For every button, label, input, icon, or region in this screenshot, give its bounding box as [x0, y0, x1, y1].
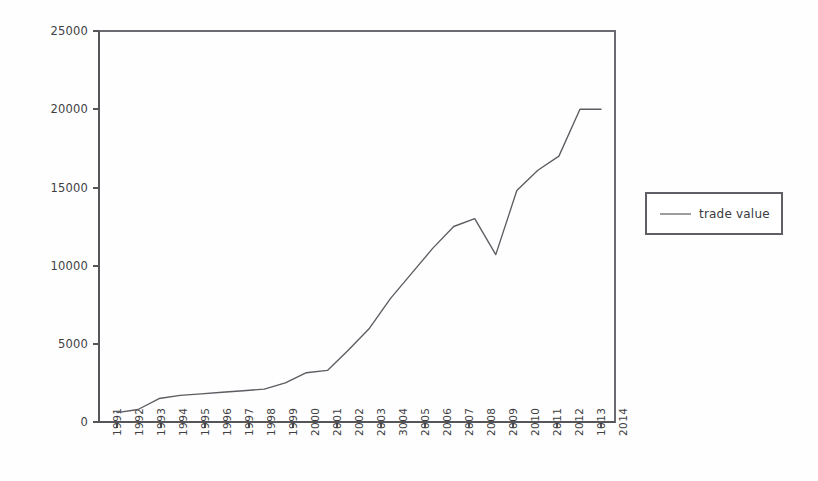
x-tick-label: 1993 — [155, 408, 167, 436]
legend-entry-label: trade value — [699, 207, 770, 221]
x-tick-label: 2014 — [617, 408, 629, 436]
y-tick-label: 20000 — [50, 102, 88, 116]
chart-figure: 25000 20000 15000 10000 5000 0 1991 1992 — [0, 0, 818, 481]
line-chart: 25000 20000 15000 10000 5000 0 1991 1992 — [0, 0, 818, 481]
x-tick-label: 2010 — [529, 408, 541, 436]
x-tick-label: 2008 — [485, 408, 497, 436]
x-tick-label: 3004 — [397, 408, 409, 436]
trade-value-series-line — [117, 109, 601, 412]
x-tick-label: 1997 — [243, 408, 255, 436]
x-tick-label: 2000 — [309, 408, 321, 436]
legend: trade value — [646, 193, 782, 234]
y-axis-tick-labels: 25000 20000 15000 10000 5000 0 — [50, 24, 88, 429]
x-tick-label: 2001 — [331, 408, 343, 436]
x-tick-label: 2011 — [551, 408, 563, 436]
x-tick-label: 1998 — [265, 408, 277, 436]
plot-frame — [99, 31, 615, 422]
x-tick-label: 2012 — [573, 408, 585, 436]
x-tick-label: 1994 — [177, 408, 189, 436]
x-tick-label: 2003 — [375, 408, 387, 436]
y-tick-label: 15000 — [50, 181, 88, 195]
x-tick-label: 2005 — [419, 408, 431, 436]
x-tick-label: 2002 — [353, 408, 365, 436]
x-tick-label: 2009 — [507, 408, 519, 436]
x-tick-label: 1013 — [595, 408, 607, 436]
x-tick-label: 2006 — [441, 408, 453, 436]
y-tick-label: 0 — [80, 415, 88, 429]
y-tick-label: 5000 — [58, 337, 88, 351]
x-tick-label: 1992 — [133, 408, 145, 436]
y-tick-label: 25000 — [50, 24, 88, 38]
plot-border — [99, 31, 615, 422]
x-tick-label: 2007 — [463, 408, 475, 436]
x-tick-label: 1999 — [287, 408, 299, 436]
x-tick-label: 1996 — [221, 408, 233, 436]
y-tick-label: 10000 — [50, 259, 88, 273]
y-tick-marks — [93, 31, 99, 422]
x-tick-label: 1995 — [199, 408, 211, 436]
